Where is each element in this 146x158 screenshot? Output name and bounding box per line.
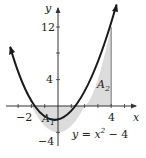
y-tick-label-12: 12	[41, 21, 55, 34]
x-tick-label-4: 4	[108, 111, 115, 124]
y-axis-arrow-icon	[56, 7, 61, 13]
equation-label: y = x2 − 4	[71, 127, 128, 141]
shaded-region-a2	[85, 27, 112, 106]
y-tick-label-4: 4	[46, 73, 53, 86]
y-tick-label-neg4: −4	[38, 135, 54, 148]
curve-right-arrow-icon	[112, 4, 118, 12]
x-axis-arrow-icon	[131, 104, 137, 109]
y-axis-label: y	[44, 2, 52, 15]
x-axis-label: x	[133, 111, 140, 124]
x-tick-label-neg2: −2	[16, 111, 32, 124]
parabola-chart: y x 12 4 −4 −2 4 A1 A2 y = x2 − 4	[0, 0, 146, 158]
